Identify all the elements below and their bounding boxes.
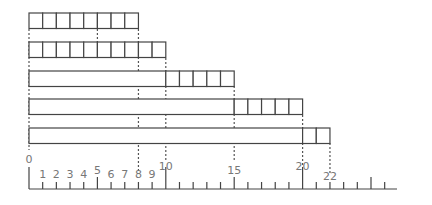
unit-cell <box>97 42 111 58</box>
tick-label-9: 9 <box>149 168 156 181</box>
unit-cell <box>111 42 125 58</box>
tick-label-8: 8 <box>135 168 142 181</box>
tick-label-1: 1 <box>39 168 46 181</box>
tick-label-2: 2 <box>53 168 60 181</box>
unit-cell <box>193 71 207 87</box>
unit-cell <box>138 42 152 58</box>
unit-cell <box>166 71 180 87</box>
unit-cell <box>111 13 125 29</box>
tick-label-10: 10 <box>159 160 173 173</box>
unit-cell <box>234 99 248 115</box>
unit-cell <box>125 42 139 58</box>
unit-cell <box>43 13 57 29</box>
bar-block-20 <box>29 128 303 144</box>
bar-block-10 <box>29 71 166 87</box>
unit-cell <box>84 42 98 58</box>
unit-cell <box>125 13 139 29</box>
tick-label-22: 22 <box>323 170 337 183</box>
unit-cell <box>56 13 70 29</box>
tick-label-4: 4 <box>80 168 87 181</box>
bar-block-15 <box>29 99 234 115</box>
unit-cell <box>248 99 262 115</box>
unit-cell <box>207 71 221 87</box>
tick-label-5: 5 <box>94 164 101 177</box>
diagram-canvas: 012345678910152022 <box>0 0 432 205</box>
unit-cell <box>29 13 43 29</box>
unit-cell <box>221 71 235 87</box>
tick-label-6: 6 <box>108 168 115 181</box>
tick-label-3: 3 <box>67 168 74 181</box>
unit-cell <box>70 42 84 58</box>
unit-cell <box>70 13 84 29</box>
tick-label-20: 20 <box>296 160 310 173</box>
tick-label-0: 0 <box>26 153 33 166</box>
unit-cell <box>56 42 70 58</box>
unit-cell <box>179 71 193 87</box>
unit-cell <box>289 99 303 115</box>
tick-label-15: 15 <box>227 164 241 177</box>
unit-cell <box>84 13 98 29</box>
unit-cell <box>152 42 166 58</box>
unit-cell <box>275 99 289 115</box>
unit-cell <box>262 99 276 115</box>
unit-cell <box>29 42 43 58</box>
unit-cell <box>43 42 57 58</box>
unit-cell <box>97 13 111 29</box>
counting-diagram: 012345678910152022 <box>0 0 432 205</box>
unit-cell <box>303 128 317 144</box>
unit-cell <box>316 128 330 144</box>
tick-label-7: 7 <box>121 168 128 181</box>
